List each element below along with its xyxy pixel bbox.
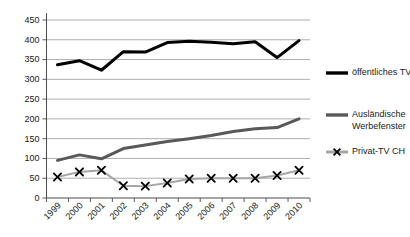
x-tick-label: 2006 [195,200,216,221]
y-axis-labels: 050100150200250300350400450 [24,15,39,203]
x-tick-label: 1999 [42,200,63,221]
x-axis-ticks [47,198,311,202]
x-tick-label: 2008 [239,200,260,221]
x-tick-label: 2003 [129,200,150,221]
x-tick-label: 2004 [151,200,172,221]
series-1 [57,41,299,71]
y-tick-label: 0 [34,193,39,203]
legend-item-auslaendische-werbefenster[interactable]: AusländischeWerbefenster [326,109,406,131]
legend-label: öffentliches TV [352,67,410,77]
y-tick-label: 450 [24,15,39,25]
legend-label-line2: Werbefenster [352,121,406,131]
x-tick-label: 2007 [217,200,238,221]
x-axis-labels: 1999200020012002200320042005200620072008… [42,200,305,221]
chart-legend: öffentliches TVAusländischeWerbefensterP… [326,67,410,156]
data-series [54,41,303,190]
chart-container: 050100150200250300350400450 199920002001… [0,0,410,237]
y-tick-label: 200 [24,114,39,124]
x-tick-label: 2010 [283,200,304,221]
line-chart: 050100150200250300350400450 199920002001… [0,0,410,237]
x-tick-label: 2005 [173,200,194,221]
y-tick-label: 300 [24,74,39,84]
series-line [57,41,299,71]
series-2 [57,119,299,161]
x-tick-label: 2002 [108,200,129,221]
legend-item-privat-tv-ch[interactable]: Privat-TV CH [326,146,405,156]
legend-label-line1: Ausländische [352,109,406,119]
x-tick-label: 2001 [86,200,107,221]
y-tick-label: 350 [24,54,39,64]
x-tick-label: 2000 [64,200,85,221]
legend-item-oeffentliches-tv[interactable]: öffentliches TV [326,67,410,77]
y-tick-label: 400 [24,35,39,45]
series-line [57,119,299,161]
gridlines [47,20,311,178]
y-tick-label: 100 [24,153,39,163]
y-axis-ticks [43,20,47,198]
legend-label: Privat-TV CH [352,146,405,156]
y-tick-label: 50 [29,173,39,183]
y-tick-label: 150 [24,134,39,144]
x-tick-label: 2009 [261,200,282,221]
y-tick-label: 250 [24,94,39,104]
